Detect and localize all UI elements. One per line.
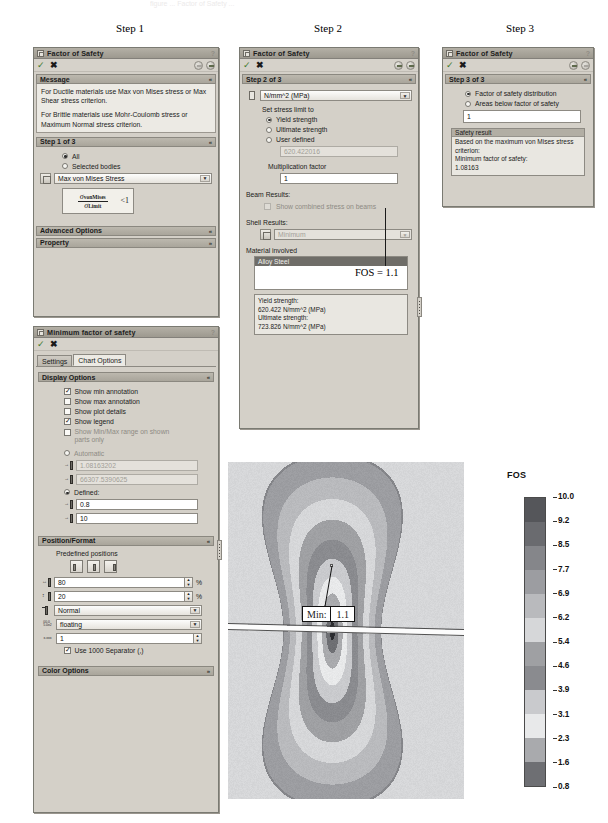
checkbox-row-show-legend[interactable]: Show legend [64, 418, 210, 425]
section-header-step-3-of-3[interactable]: Step 3 of 3 « [445, 74, 591, 84]
units-row[interactable]: N/mm^2 (MPa) ▼ [246, 90, 412, 101]
radio-row-automatic[interactable]: Automatic [64, 450, 210, 457]
pos-y-input[interactable]: 20 [54, 591, 185, 602]
areas-below-input[interactable]: 1 [463, 110, 581, 123]
chevron-up-icon[interactable]: « [209, 228, 212, 234]
size-row[interactable]: Normal ▼ [42, 605, 202, 616]
next-arrow-icon[interactable] [406, 61, 415, 70]
checkbox-row-show-minmax-range[interactable]: Show Min/Max range on shown parts only [64, 428, 210, 445]
beam-results-checkbox-row[interactable]: Show combined stress on beams [262, 201, 412, 212]
chevron-down-icon[interactable]: ▼ [190, 607, 200, 614]
checkbox-row-show-min-annotation[interactable]: Show min annotation [64, 388, 210, 395]
radio-row-areas-below[interactable]: Areas below factor of safety [465, 100, 587, 107]
checkbox-show-max-annotation[interactable] [64, 398, 71, 405]
position-preset-center-button[interactable] [87, 560, 100, 573]
chevron-down-icon[interactable]: ▼ [400, 92, 410, 99]
radio-row-fos-distribution[interactable]: Factor of safety distribution [465, 90, 587, 97]
defined-min-input[interactable]: 0.8 [76, 499, 198, 510]
radio-automatic[interactable] [64, 450, 70, 456]
bodies-selection-icon[interactable] [40, 173, 51, 184]
multiplication-factor-input[interactable]: 1 [280, 173, 398, 184]
tab-chart-options[interactable]: Chart Options [73, 354, 126, 366]
chevron-down-icon[interactable]: » [209, 240, 212, 246]
position-preset-left-button[interactable] [70, 560, 83, 573]
section-header-advanced-options[interactable]: Advanced Options « [36, 226, 216, 236]
auto-max-input[interactable]: 66307.5390625 [76, 474, 198, 485]
cancel-x-icon[interactable]: ✖ [256, 61, 264, 70]
tab-settings[interactable]: Settings [37, 355, 72, 366]
radio-user-defined[interactable] [266, 137, 272, 143]
next-arrow-icon[interactable] [581, 61, 590, 70]
pos-x-input[interactable]: 80 [54, 577, 185, 588]
pos-y-stepper[interactable]: ▲▼ [185, 591, 193, 602]
radio-row-all[interactable]: All [62, 153, 212, 160]
panel-factor-of-safety-step2[interactable]: Factor of Safety ? ✓ ✖ Step 2 of 3 « N/m… [239, 47, 419, 429]
position-preset-right-button[interactable] [104, 560, 117, 573]
checkbox-show-plot-details[interactable] [64, 408, 71, 415]
checkbox-use-1000-separator[interactable] [64, 647, 71, 654]
checkbox-show-min-annotation[interactable] [64, 388, 71, 395]
defined-max-input[interactable]: 10 [76, 513, 198, 524]
number-format-row[interactable]: 00.05.0e2 floating ▼ [42, 619, 202, 630]
defined-min-row[interactable]: → 0.8 [64, 499, 198, 510]
panel-resize-grip-minfos[interactable] [217, 540, 222, 560]
shell-results-combo[interactable]: Minimum ▼ [274, 229, 412, 240]
pos-x-stepper[interactable]: ▲▼ [185, 577, 193, 588]
section-header-step-2-of-3[interactable]: Step 2 of 3 « [242, 74, 416, 84]
section-header-message[interactable]: Message « [36, 74, 216, 84]
radio-row-user-defined[interactable]: User defined [266, 136, 412, 143]
auto-max-row[interactable]: → 66307.5390625 [64, 474, 198, 485]
criterion-combo[interactable]: Max von Mises Stress ▼ [54, 173, 212, 184]
chevron-down-icon[interactable]: ▼ [200, 175, 210, 182]
radio-ultimate-strength[interactable] [266, 127, 272, 133]
help-icon[interactable]: ? [211, 329, 215, 336]
confirm-check-icon[interactable]: ✓ [446, 61, 454, 70]
chevron-down-icon[interactable]: ▼ [400, 231, 410, 238]
checkbox-row-use-1000-separator[interactable]: Use 1000 Separator (,) [64, 647, 210, 654]
panel-factor-of-safety-step1[interactable]: Factor of Safety ? ✓ ✖ Message « For Duc… [33, 47, 219, 317]
radio-row-defined[interactable]: Defined: [64, 489, 210, 496]
chevron-down-icon[interactable]: ▼ [190, 621, 200, 628]
user-defined-input[interactable]: 620.422016 [280, 146, 398, 157]
next-arrow-icon[interactable] [206, 61, 215, 70]
cancel-x-icon[interactable]: ✖ [459, 61, 467, 70]
panel-resize-grip-step2[interactable] [417, 297, 422, 317]
chevron-up-icon[interactable]: « [209, 76, 212, 82]
units-combo[interactable]: N/mm^2 (MPa) ▼ [260, 90, 412, 101]
back-arrow-icon[interactable] [569, 61, 578, 70]
radio-yield-strength[interactable] [266, 117, 272, 123]
chevron-up-icon[interactable]: « [207, 374, 210, 380]
checkbox-show-minmax-range[interactable] [64, 429, 71, 436]
chevron-down-icon[interactable]: » [207, 668, 210, 674]
pos-x-row[interactable]: ↔ 80 ▲▼ % [42, 577, 202, 588]
section-header-display-options[interactable]: Display Options « [38, 372, 214, 382]
radio-fos-distribution[interactable] [465, 91, 471, 97]
checkbox-show-legend[interactable] [64, 418, 71, 425]
help-icon[interactable]: ? [211, 50, 215, 57]
radio-row-ultimate-strength[interactable]: Ultimate strength [266, 126, 412, 133]
radio-selected-bodies[interactable] [62, 163, 68, 169]
auto-min-row[interactable]: → 1.08163202 [64, 460, 198, 471]
back-arrow-icon[interactable] [394, 61, 403, 70]
radio-defined[interactable] [64, 489, 70, 495]
help-icon[interactable]: ? [586, 50, 590, 57]
cancel-x-icon[interactable]: ✖ [50, 61, 58, 70]
checkbox-row-show-plot-details[interactable]: Show plot details [64, 408, 210, 415]
shell-results-row[interactable]: Minimum ▼ [260, 229, 412, 240]
radio-areas-below[interactable] [465, 101, 471, 107]
number-format-combo[interactable]: floating ▼ [56, 619, 202, 630]
cancel-x-icon[interactable]: ✖ [50, 340, 58, 349]
radio-row-yield-strength[interactable]: Yield strength [266, 116, 412, 123]
decimals-stepper[interactable]: ▲▼ [194, 633, 202, 644]
chevron-up-icon[interactable]: « [209, 139, 212, 145]
user-defined-value-row[interactable]: 620.422016 [280, 146, 398, 157]
confirm-check-icon[interactable]: ✓ [243, 61, 251, 70]
fos-contour-plot[interactable] [228, 462, 464, 799]
size-combo[interactable]: Normal ▼ [54, 605, 202, 616]
checkbox-row-show-max-annotation[interactable]: Show max annotation [64, 398, 210, 405]
panel-factor-of-safety-step3[interactable]: Factor of Safety ? ✓ ✖ Step 3 of 3 « Fac… [442, 47, 594, 207]
criterion-row[interactable]: Max von Mises Stress ▼ [40, 173, 212, 184]
fos-contour-canvas[interactable] [228, 462, 464, 799]
chevron-up-icon[interactable]: « [207, 538, 210, 544]
confirm-check-icon[interactable]: ✓ [37, 340, 45, 349]
